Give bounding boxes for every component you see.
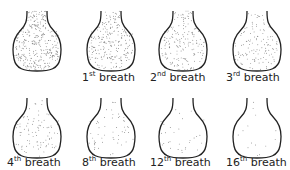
- flask-3rd-breath: [232, 10, 282, 72]
- flask-12th-breath: [158, 97, 208, 159]
- flask-1st-breath: [86, 10, 136, 72]
- flask-2nd-breath: [158, 10, 208, 72]
- flask-4th-breath: [12, 97, 62, 159]
- flask-8th-breath: [86, 97, 136, 159]
- breath-label: 2nd breath: [150, 70, 205, 84]
- flask-16th-breath: [232, 97, 282, 159]
- breath-label: 12th breath: [150, 155, 211, 169]
- flask-initial: [12, 10, 62, 72]
- breath-label: 4th breath: [7, 155, 61, 169]
- breath-label: 1st breath: [82, 70, 135, 84]
- breath-label: 16th breath: [226, 155, 287, 169]
- breath-label: 3rd breath: [226, 70, 280, 84]
- breath-label: 8th breath: [82, 155, 136, 169]
